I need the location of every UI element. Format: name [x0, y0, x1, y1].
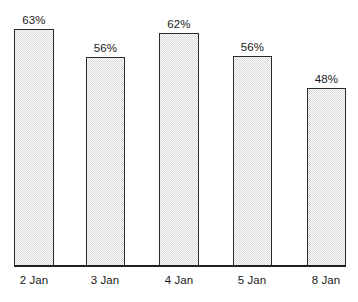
plot-area: 63% 56% 62% 56% 48% 2 Jan 3 Jan 4 Jan 5 … — [0, 0, 358, 302]
bar-value-label: 63% — [22, 14, 45, 26]
bar — [307, 88, 346, 266]
bar — [159, 33, 199, 266]
bar-group: 63% — [14, 29, 54, 266]
bar-chart: 63% 56% 62% 56% 48% 2 Jan 3 Jan 4 Jan 5 … — [0, 0, 358, 302]
bar-value-label: 48% — [315, 73, 338, 85]
bar-group: 56% — [233, 56, 272, 266]
bar-value-label: 56% — [94, 42, 117, 54]
x-axis-tick-label: 3 Jan — [91, 274, 120, 286]
bar — [233, 56, 272, 266]
bar-group: 56% — [86, 57, 125, 266]
x-axis-tick-label: 5 Jan — [238, 274, 267, 286]
x-axis-tick-label: 2 Jan — [20, 274, 49, 286]
bar-value-label: 56% — [241, 41, 264, 53]
bar-group: 62% — [159, 33, 199, 266]
x-axis-tick-label: 8 Jan — [312, 274, 341, 286]
x-axis-tick-label: 4 Jan — [165, 274, 194, 286]
bar-value-label: 62% — [167, 18, 190, 30]
bar-group: 48% — [307, 88, 346, 266]
bar — [14, 29, 54, 266]
bar — [86, 57, 125, 266]
x-axis-baseline — [14, 265, 346, 267]
